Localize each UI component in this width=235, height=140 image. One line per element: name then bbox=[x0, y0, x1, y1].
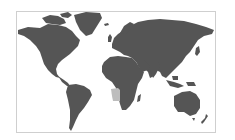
new-zealand bbox=[201, 114, 208, 124]
madagascar bbox=[137, 94, 141, 102]
world-map bbox=[0, 0, 235, 140]
japan bbox=[195, 46, 200, 56]
arctic-islands-2 bbox=[60, 12, 72, 18]
southeast-asia-islands bbox=[166, 80, 184, 88]
uk bbox=[108, 34, 112, 42]
tasmania bbox=[192, 118, 195, 121]
new-guinea bbox=[186, 82, 196, 86]
south-america bbox=[66, 84, 92, 131]
central-america bbox=[58, 76, 70, 86]
north-america bbox=[18, 24, 80, 78]
highlighted-region-angola bbox=[111, 88, 120, 101]
borneo bbox=[172, 76, 178, 80]
australia bbox=[174, 91, 200, 116]
iceland bbox=[104, 23, 109, 26]
greenland bbox=[74, 12, 102, 36]
land-masses bbox=[18, 12, 214, 131]
